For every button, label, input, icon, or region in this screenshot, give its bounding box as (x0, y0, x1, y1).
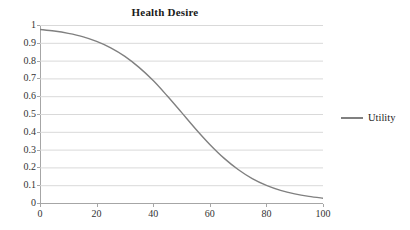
y-axis-tick-label: 0.4 (2, 127, 36, 137)
plot-area (40, 25, 323, 203)
x-axis-tick-label: 100 (303, 209, 343, 219)
y-axis-tick-label: 0.5 (2, 109, 36, 119)
x-axis-tick-label: 80 (246, 209, 286, 219)
y-axis-tick-labels: 00.10.20.30.40.50.60.70.80.91 (0, 0, 36, 230)
x-axis-tick-mark (323, 204, 324, 207)
x-axis-tick-label: 40 (133, 209, 173, 219)
y-axis-tick-label: 1 (2, 20, 36, 30)
y-axis-tick-label: 0.3 (2, 145, 36, 155)
legend-line-marker-utility (341, 117, 363, 119)
y-axis-tick-label: 0.9 (2, 38, 36, 48)
x-axis-tick-mark (266, 204, 267, 207)
legend: Utility (341, 112, 395, 123)
y-axis-tick-label: 0.7 (2, 73, 36, 83)
y-axis-tick-label: 0.6 (2, 91, 36, 101)
y-axis-tick-label: 0.8 (2, 56, 36, 66)
y-axis-tick-label: 0 (2, 198, 36, 208)
y-axis-tick-label: 0.2 (2, 162, 36, 172)
series-line-utility (40, 29, 323, 198)
chart-title: Health Desire (0, 6, 330, 18)
x-axis-tick-mark (97, 204, 98, 207)
x-axis-tick-mark (40, 204, 41, 207)
x-axis-tick-mark (153, 204, 154, 207)
x-axis-tick-label: 20 (77, 209, 117, 219)
x-axis-line (40, 203, 323, 204)
x-axis-tick-label: 60 (190, 209, 230, 219)
chart-container: Health Desire 00.10.20.30.40.50.60.70.80… (0, 0, 410, 230)
legend-label-utility: Utility (368, 112, 395, 123)
y-axis-tick-label: 0.1 (2, 180, 36, 190)
x-axis-tick-label: 0 (20, 209, 60, 219)
x-axis-tick-mark (210, 204, 211, 207)
series-utility-line (40, 25, 323, 203)
